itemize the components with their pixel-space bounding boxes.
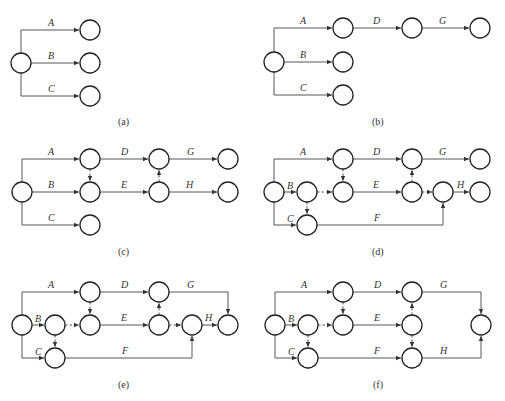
activity-label-B: B xyxy=(288,313,294,324)
activity-label-A: A xyxy=(300,279,308,290)
activity-label-F: F xyxy=(373,212,381,223)
edge-d-A xyxy=(274,159,332,182)
node xyxy=(80,215,100,235)
activity-label-G: G xyxy=(440,279,447,290)
node xyxy=(402,182,422,202)
panel-f: A B C D E F G H (f) xyxy=(265,279,491,391)
activity-label-H: H xyxy=(185,179,194,190)
activity-label-A: A xyxy=(47,17,55,28)
activity-label-C: C xyxy=(288,346,295,357)
activity-label-H: H xyxy=(456,179,465,190)
caption-c: (c) xyxy=(118,246,129,258)
activity-label-F: F xyxy=(373,345,381,356)
edge-e-G xyxy=(169,292,228,314)
node xyxy=(333,282,353,302)
node-end xyxy=(471,315,491,335)
caption-d: (d) xyxy=(372,246,384,258)
node xyxy=(402,348,422,368)
activity-label-E: E xyxy=(120,312,127,323)
edge-e-A xyxy=(22,292,79,315)
activity-label-C: C xyxy=(300,82,307,93)
activity-label-E: E xyxy=(372,179,379,190)
node-start xyxy=(11,53,31,73)
activity-label-C: C xyxy=(48,83,55,94)
node xyxy=(80,86,100,106)
activity-label-G: G xyxy=(187,279,194,290)
node-start xyxy=(264,182,284,202)
activity-label-E: E xyxy=(120,179,127,190)
activity-label-B: B xyxy=(35,313,41,324)
node xyxy=(218,182,238,202)
node xyxy=(402,18,422,38)
activity-label-A: A xyxy=(47,279,55,290)
node xyxy=(80,53,100,73)
caption-b: (b) xyxy=(372,116,384,128)
node xyxy=(45,348,65,368)
node xyxy=(182,315,202,335)
node xyxy=(470,149,490,169)
activity-label-B: B xyxy=(287,180,293,191)
node xyxy=(402,282,422,302)
node xyxy=(80,315,100,335)
network-diagram-figure: A B C (a) A B C D G (b) xyxy=(0,0,505,401)
node xyxy=(333,52,353,72)
activity-label-D: D xyxy=(373,279,382,290)
activity-label-C: C xyxy=(287,213,294,224)
node xyxy=(402,315,422,335)
caption-a: (a) xyxy=(118,116,129,128)
node xyxy=(433,182,453,202)
panel-d: A B C D E F G H (d) xyxy=(264,146,490,258)
edge-f-H xyxy=(422,336,481,358)
panel-c: A B C D E G H (c) xyxy=(12,146,238,258)
node-start xyxy=(265,315,285,335)
activity-label-B: B xyxy=(300,49,306,60)
activity-label-A: A xyxy=(299,15,307,26)
node xyxy=(80,20,100,40)
node xyxy=(149,149,169,169)
node xyxy=(80,182,100,202)
node xyxy=(149,282,169,302)
node xyxy=(333,315,353,335)
node-end xyxy=(218,315,238,335)
node xyxy=(45,315,65,335)
activity-label-D: D xyxy=(120,146,129,157)
activity-label-D: D xyxy=(120,279,129,290)
activity-label-B: B xyxy=(48,50,54,61)
activity-label-H: H xyxy=(439,345,448,356)
panel-e: A B C D E F G H (e) xyxy=(12,279,238,391)
node xyxy=(297,182,317,202)
node xyxy=(218,149,238,169)
activity-label-F: F xyxy=(121,345,129,356)
node xyxy=(333,149,353,169)
node xyxy=(297,215,317,235)
node-start xyxy=(12,182,32,202)
edge-f-G xyxy=(422,292,481,314)
activity-label-C: C xyxy=(48,212,55,223)
activity-label-G: G xyxy=(439,15,446,26)
node xyxy=(149,182,169,202)
node xyxy=(470,182,490,202)
edge-e-F xyxy=(65,336,192,358)
node-start xyxy=(12,315,32,335)
activity-label-E: E xyxy=(373,312,380,323)
node xyxy=(333,182,353,202)
node-start xyxy=(264,52,284,72)
node xyxy=(149,315,169,335)
node xyxy=(333,85,353,105)
node xyxy=(80,282,100,302)
node xyxy=(402,149,422,169)
activity-label-A: A xyxy=(47,146,55,157)
activity-label-H: H xyxy=(204,312,213,323)
activity-label-B: B xyxy=(48,179,54,190)
activity-label-D: D xyxy=(372,146,381,157)
activity-label-G: G xyxy=(187,146,194,157)
activity-label-C: C xyxy=(35,346,42,357)
node xyxy=(333,18,353,38)
caption-f: (f) xyxy=(373,379,383,391)
activity-label-G: G xyxy=(439,146,446,157)
node xyxy=(470,18,490,38)
node xyxy=(298,315,318,335)
caption-e: (e) xyxy=(118,379,129,391)
node xyxy=(298,348,318,368)
activity-label-D: D xyxy=(372,15,381,26)
